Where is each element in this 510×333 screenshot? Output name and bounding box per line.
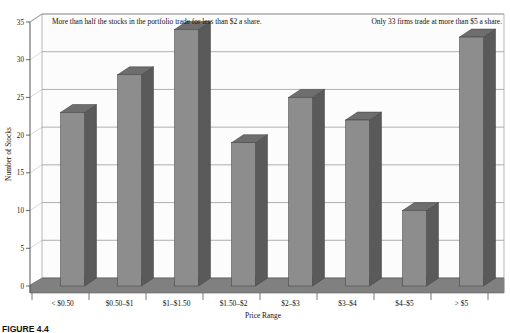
bar-column <box>289 89 325 286</box>
y-tick-label: 30 <box>17 56 25 64</box>
annotation-right: Only 33 firms trade at more than $5 a sh… <box>371 17 502 26</box>
x-axis-title: Price Range <box>245 311 282 320</box>
gridline-depth <box>30 127 42 135</box>
bar-column <box>346 112 382 286</box>
x-tick-label: $0.50–$1 <box>106 299 134 308</box>
bar-side-face <box>426 203 438 286</box>
figure-caption: FIGURE 4.4 <box>2 324 49 333</box>
bar-side-face <box>198 22 210 286</box>
x-axis: < $0.50$0.50–$1$1–$1.50$1.50–$2$2–$3$3–$… <box>32 293 488 308</box>
bar-side-face <box>369 112 381 286</box>
bar-front-face <box>175 30 199 286</box>
gridline-depth <box>30 240 42 248</box>
x-tick-label: $2–$3 <box>281 299 300 308</box>
bar-side-face <box>84 105 96 286</box>
bar-front-face <box>61 113 85 286</box>
gridline-depth <box>30 165 42 173</box>
x-tick-label: $3–$4 <box>338 299 357 308</box>
annotation-left: More than half the stocks in the portfol… <box>52 17 262 26</box>
bar-column <box>118 67 154 286</box>
bar-side-face <box>483 29 495 286</box>
figure-container: 05101520253035 < $0.50$0.50–$1$1–$1.50$1… <box>0 0 510 333</box>
x-tick-label: < $0.50 <box>51 299 74 308</box>
y-tick-label: 5 <box>20 245 24 253</box>
bar-side-face <box>255 135 267 286</box>
bar-column <box>232 135 268 286</box>
y-tick-label: 20 <box>17 132 25 140</box>
y-axis: 05101520253035 <box>17 19 30 291</box>
y-tick-label: 15 <box>17 169 25 177</box>
bar-column <box>403 203 439 286</box>
x-tick-label: $1.50–$2 <box>220 299 248 308</box>
bar-front-face <box>232 143 256 286</box>
gridline-depth <box>30 89 42 97</box>
x-tick-label: $4–$5 <box>395 299 414 308</box>
bar-front-face <box>289 97 313 286</box>
bar-side-face <box>141 67 153 286</box>
bar-side-face <box>312 89 324 286</box>
y-axis-title: Number of Stocks <box>4 127 13 181</box>
bar-column <box>61 105 97 286</box>
bar-front-face <box>346 120 370 286</box>
gridline-depth <box>30 52 42 60</box>
bar-front-face <box>460 37 484 286</box>
bar-chart-3d: 05101520253035 < $0.50$0.50–$1$1–$1.50$1… <box>0 0 510 333</box>
x-tick-label: > $5 <box>455 299 469 308</box>
y-tick-label: 25 <box>17 94 25 102</box>
bar-front-face <box>118 75 142 286</box>
y-tick-label: 35 <box>17 19 25 27</box>
x-tick-label: $1–$1.50 <box>163 299 191 308</box>
bar-column <box>460 29 496 286</box>
y-tick-label: 10 <box>17 207 25 215</box>
bar-column <box>175 22 211 286</box>
y-tick-label: 0 <box>20 283 24 291</box>
bar-front-face <box>403 211 427 286</box>
gridline-depth <box>30 203 42 211</box>
